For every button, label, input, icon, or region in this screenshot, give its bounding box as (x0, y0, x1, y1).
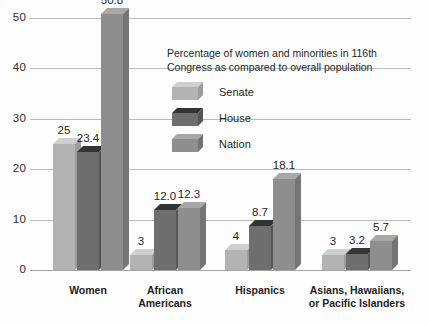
legend-label-house: House (219, 112, 251, 124)
y-axis-tick-0: 0 (0, 263, 26, 275)
category-label-3: Asians, Hawaiians,or Pacific Islanders (287, 284, 427, 310)
legend-item-house: House (167, 109, 392, 132)
category-label-line: Asians, Hawaiians, (287, 284, 427, 297)
gridline-50 (30, 18, 411, 19)
bar-house-1 (154, 210, 176, 270)
category-label-line: or Pacific Islanders (287, 297, 427, 310)
legend-title-line-1: Percentage of women and minorities in 11… (167, 47, 392, 61)
bar-nation-0 (101, 14, 123, 270)
value-label-house-0: 23.4 (71, 132, 105, 144)
bar-house-0 (77, 152, 99, 270)
y-axis-tick-10: 10 (0, 213, 26, 225)
value-label-nation-1: 12.3 (172, 188, 206, 200)
legend-label-nation: Nation (219, 138, 251, 150)
legend-swatch-senate-icon (172, 87, 198, 100)
value-label-senate-1: 3 (124, 235, 158, 247)
category-label-line: Americans (95, 297, 235, 310)
bar-senate-0 (53, 144, 75, 270)
y-axis-tick-50: 50 (0, 11, 26, 23)
y-axis-tick-30: 30 (0, 112, 26, 124)
value-label-nation-0: 50.8 (95, 0, 129, 6)
y-axis-tick-20: 20 (0, 162, 26, 174)
bar-senate-3 (322, 255, 344, 270)
bar-nation-1 (178, 208, 200, 270)
gridline-0 (30, 270, 411, 271)
legend-swatch-nation-icon (172, 139, 198, 152)
legend-swatch-house-icon (172, 113, 198, 126)
bar-senate-1 (130, 255, 152, 270)
bar-nation-3 (370, 241, 392, 270)
bar-senate-2 (225, 250, 247, 270)
legend-item-senate: Senate (167, 83, 392, 106)
bar-chart: 01020304050 2523.450.8312.012.348.718.13… (0, 0, 429, 325)
value-label-house-3: 3.2 (340, 234, 374, 246)
bar-house-3 (346, 254, 368, 270)
legend-title-line-2: Congress as compared to overall populati… (167, 61, 392, 75)
chart-legend: Percentage of women and minorities in 11… (167, 47, 392, 161)
legend-label-senate: Senate (219, 86, 254, 98)
value-label-nation-3: 5.7 (364, 221, 398, 233)
value-label-house-2: 8.7 (243, 206, 277, 218)
y-axis-tick-40: 40 (0, 61, 26, 73)
bar-house-2 (249, 226, 271, 270)
value-label-senate-2: 4 (219, 230, 253, 242)
bar-nation-2 (273, 179, 295, 270)
legend-item-nation: Nation (167, 135, 392, 158)
